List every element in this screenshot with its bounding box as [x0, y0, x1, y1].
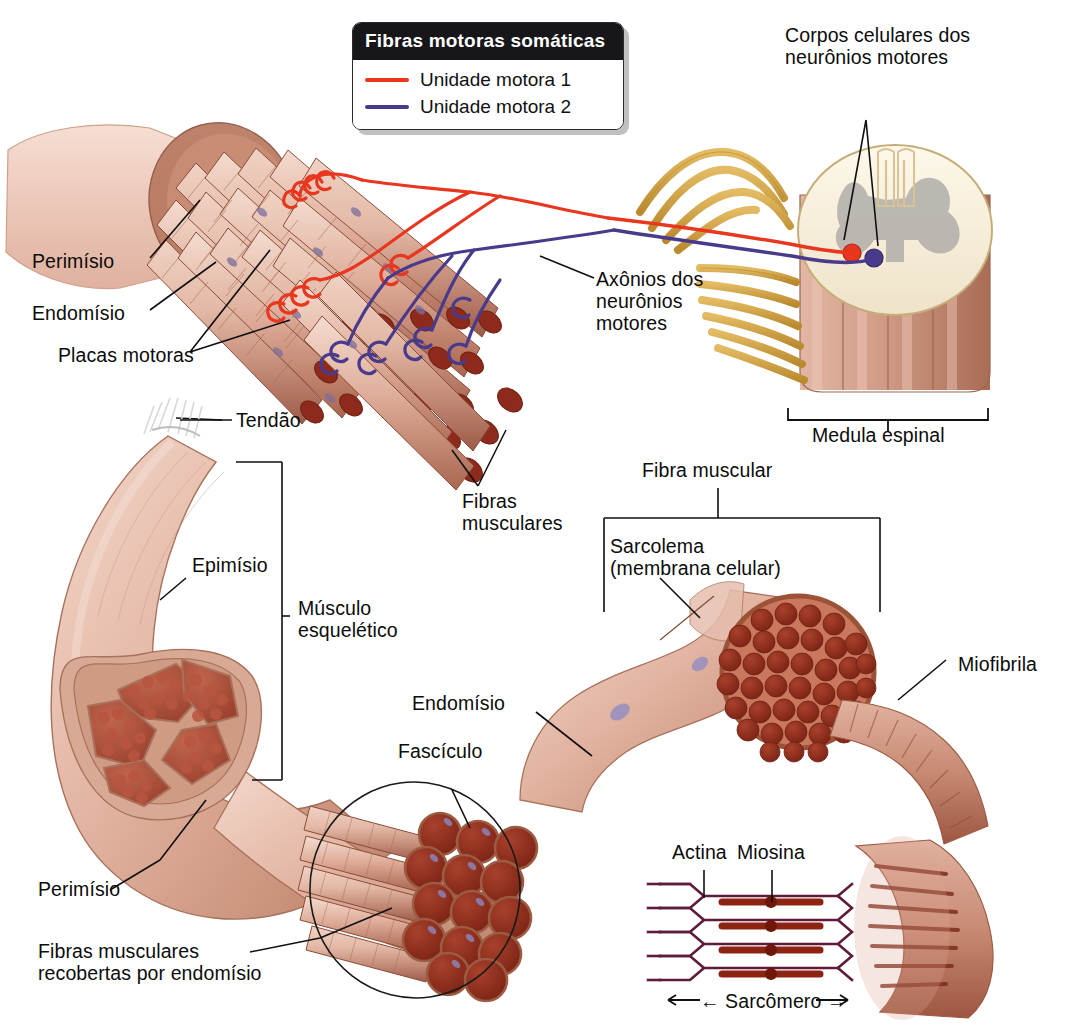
upper-muscle-group — [6, 105, 614, 490]
label-musculo-esqueletico: Músculo esquelético — [298, 597, 398, 641]
label-fibra-muscular: Fibra muscular — [642, 459, 772, 481]
label-sarcolema: Sarcolema (membrana celular) — [610, 535, 781, 579]
legend-label-motor-unit-1: Unidade motora 1 — [420, 69, 571, 91]
label-miofibrila: Miofibrila — [958, 653, 1037, 675]
label-perimisio-bottom: Perimísio — [38, 878, 120, 900]
label-perimisio-top: Perimísio — [32, 250, 114, 272]
label-placas-motoras: Placas motoras — [58, 344, 194, 366]
label-medula-espinal: Medula espinal — [812, 424, 945, 446]
label-endomisio-mid: Endomísio — [412, 692, 505, 714]
label-fibras-musculares: Fibras musculares — [462, 490, 563, 534]
label-actina: Actina — [672, 841, 727, 863]
figure-canvas: Fibras motoras somáticas Unidade motora … — [0, 0, 1070, 1028]
label-fasciculo: Fascículo — [398, 740, 482, 762]
label-endomisio-top: Endomísio — [32, 302, 125, 324]
legend-item-motor-unit-1: Unidade motora 1 — [365, 66, 611, 93]
label-sarcomero: ← Sarcômero → — [700, 990, 847, 1012]
label-tendao: Tendão — [236, 409, 301, 431]
single-fiber-group — [520, 582, 993, 1020]
legend-box: Fibras motoras somáticas Unidade motora … — [352, 22, 624, 130]
legend-header: Fibras motoras somáticas — [353, 23, 623, 60]
legend-swatch-motor-unit-1 — [365, 78, 409, 82]
muscle-fiber-bundle — [147, 148, 527, 490]
sarcomere-schematic — [648, 870, 852, 1005]
legend-item-motor-unit-2: Unidade motora 2 — [365, 93, 611, 120]
label-corpos-celulares: Corpos celulares dos neurônios motores — [785, 24, 970, 68]
label-fibras-recobertas: Fibras musculares recobertas por endomís… — [38, 940, 262, 984]
nerve-roots — [640, 152, 804, 380]
label-miosina: Miosina — [737, 841, 805, 863]
label-epimisio: Epimísio — [192, 554, 268, 576]
legend-label-motor-unit-2: Unidade motora 2 — [420, 96, 571, 118]
legend-body: Unidade motora 1 Unidade motora 2 — [353, 60, 623, 129]
label-axonios: Axônios dos neurônios motores — [596, 268, 703, 334]
legend-swatch-motor-unit-2 — [365, 105, 409, 109]
